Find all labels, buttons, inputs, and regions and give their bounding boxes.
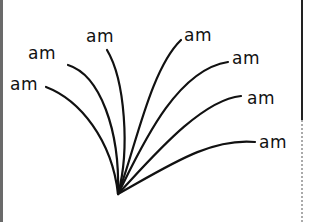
fan-line-2 [68, 65, 118, 194]
fan-line-5 [118, 62, 228, 194]
fan-line-1 [46, 87, 118, 194]
diagram-canvas: am am am am am am am [0, 0, 315, 222]
fan-line-7 [118, 142, 255, 194]
label-4: am [184, 27, 212, 44]
label-7: am [259, 134, 287, 151]
label-3: am [86, 28, 114, 45]
label-2: am [28, 45, 56, 62]
label-6: am [247, 90, 275, 107]
fan-lines [0, 0, 315, 222]
label-5: am [232, 50, 260, 67]
fan-line-4 [118, 40, 181, 194]
label-1: am [10, 76, 38, 93]
